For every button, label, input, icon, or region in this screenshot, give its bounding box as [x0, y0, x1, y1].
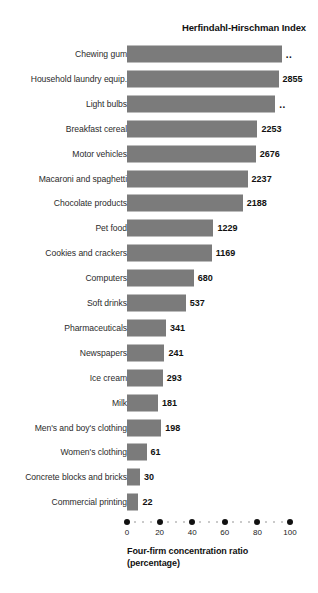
category-label: Commercial printing — [52, 497, 127, 507]
table-row: Macaroni and spaghetti2237 — [0, 167, 318, 191]
axis-minor-dot — [183, 521, 185, 523]
bar — [127, 170, 248, 187]
axis-tick-label: 20 — [155, 528, 164, 537]
bar — [127, 369, 163, 386]
table-row: Soft drinks537 — [0, 291, 318, 315]
axis-tick-dot — [157, 519, 163, 525]
bar — [127, 195, 243, 212]
bar-value-label: 680 — [198, 273, 213, 283]
category-label: Household laundry equip. — [31, 74, 127, 84]
axis-tick-dot — [189, 519, 195, 525]
table-row: Women's clothing61 — [0, 440, 318, 464]
table-row: Chewing gum.. — [0, 42, 318, 66]
category-label: Newspapers — [80, 348, 127, 358]
bar — [127, 70, 279, 87]
table-row: Motor vehicles2676 — [0, 142, 318, 166]
axis-minor-dot — [248, 521, 250, 523]
category-label: Ice cream — [90, 373, 127, 383]
x-axis-title-line2: (percentage) — [127, 557, 248, 569]
bar-value-label: .. — [286, 49, 293, 60]
bar-value-label: 2676 — [260, 149, 280, 159]
category-label: Women's clothing — [60, 447, 127, 457]
axis-tick-dot — [222, 519, 228, 525]
chart-title: Herfindahl-Hirschman Index — [0, 22, 306, 33]
table-row: Cookies and crackers1169 — [0, 241, 318, 265]
table-row: Computers680 — [0, 266, 318, 290]
axis-minor-dot — [265, 521, 267, 523]
category-label: Pet food — [95, 223, 127, 233]
table-row: Milk181 — [0, 391, 318, 415]
axis-tick-dot — [124, 519, 130, 525]
axis-tick-label: 40 — [188, 528, 197, 537]
category-label: Macaroni and spaghetti — [39, 174, 127, 184]
bar — [127, 419, 161, 436]
axis-tick-label: 60 — [220, 528, 229, 537]
category-label: Pharmaceuticals — [64, 323, 127, 333]
axis-minor-dot — [199, 521, 201, 523]
table-row: Pet food1229 — [0, 216, 318, 240]
table-row: Ice cream293 — [0, 366, 318, 390]
bar — [127, 295, 186, 312]
category-label: Concrete blocks and bricks — [25, 472, 127, 482]
bar — [127, 494, 138, 511]
axis-minor-dot — [150, 521, 152, 523]
table-row: Household laundry equip.2855 — [0, 67, 318, 91]
x-axis-title: Four-firm concentration ratio (percentag… — [127, 545, 248, 569]
bar-value-label: 30 — [144, 472, 154, 482]
axis-minor-dot — [216, 521, 218, 523]
axis-minor-dot — [281, 521, 283, 523]
category-label: Computers — [85, 273, 127, 283]
bar-value-label: 181 — [162, 398, 177, 408]
axis-tick-label: 80 — [253, 528, 262, 537]
table-row: Newspapers241 — [0, 341, 318, 365]
axis-minor-dot — [134, 521, 136, 523]
bar — [127, 444, 147, 461]
bar — [127, 319, 166, 336]
axis-tick-label: 100 — [283, 528, 296, 537]
x-axis-title-line1: Four-firm concentration ratio — [127, 545, 248, 557]
table-row: Chocolate products2188 — [0, 191, 318, 215]
bar — [127, 270, 194, 287]
bar-value-label: 2855 — [283, 74, 303, 84]
category-label: Men's and boy's clothing — [35, 423, 127, 433]
category-label: Chewing gum — [75, 49, 127, 59]
axis-tick-dot — [287, 519, 293, 525]
x-axis: 020406080100 — [0, 519, 318, 541]
bar-value-label: 341 — [170, 323, 185, 333]
bar-value-label: 198 — [165, 423, 180, 433]
bar — [127, 245, 212, 262]
axis-tick-dot — [254, 519, 260, 525]
bar — [127, 220, 213, 237]
axis-minor-dot — [142, 521, 144, 523]
bar — [127, 469, 140, 486]
table-row: Commercial printing22 — [0, 490, 318, 514]
bar — [127, 120, 257, 137]
category-label: Cookies and crackers — [45, 248, 127, 258]
bar-value-label: 2253 — [261, 124, 281, 134]
bar-value-label: .. — [279, 98, 286, 109]
bar — [127, 145, 256, 162]
bar-value-label: 293 — [167, 373, 182, 383]
table-row: Pharmaceuticals341 — [0, 316, 318, 340]
axis-minor-dot — [273, 521, 275, 523]
bar — [127, 95, 275, 112]
bar-value-label: 1169 — [216, 248, 236, 258]
bar — [127, 46, 282, 63]
herfindahl-hirschman-index-chart: Herfindahl-Hirschman Index Chewing gum..… — [0, 0, 318, 593]
category-label: Light bulbs — [86, 99, 127, 109]
bar — [127, 344, 164, 361]
axis-minor-dot — [232, 521, 234, 523]
bar-value-label: 241 — [168, 348, 183, 358]
bar-value-label: 2188 — [247, 198, 267, 208]
axis-minor-dot — [175, 521, 177, 523]
axis-minor-dot — [167, 521, 169, 523]
axis-minor-dot — [240, 521, 242, 523]
axis-tick-label: 0 — [125, 528, 129, 537]
bar-value-label: 1229 — [217, 223, 237, 233]
table-row: Breakfast cereal2253 — [0, 117, 318, 141]
category-label: Chocolate products — [54, 198, 127, 208]
table-row: Light bulbs.. — [0, 92, 318, 116]
bar-value-label: 61 — [151, 447, 161, 457]
category-label: Motor vehicles — [72, 149, 127, 159]
bar-value-label: 2237 — [252, 174, 272, 184]
